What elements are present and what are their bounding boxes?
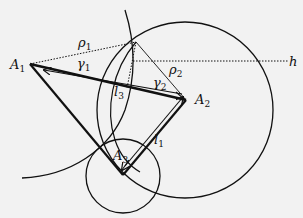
point-label-a2: A2 — [195, 93, 210, 109]
point-label-a3: A3 — [113, 149, 128, 165]
label-h: h — [289, 55, 297, 68]
label-gamma1: γ1 — [77, 57, 91, 73]
label-gamma2: γ2 — [153, 76, 167, 92]
diagram-drawing — [0, 0, 303, 218]
label-l3: l3 — [114, 85, 124, 101]
geometry-diagram: A1 A2 A3 ρ1 γ1 ρ2 γ2 l3 l1 h — [0, 0, 303, 218]
edge-a1-a3 — [30, 64, 123, 175]
label-rho1: ρ1 — [78, 36, 91, 52]
large-circle — [97, 22, 273, 198]
label-l1: l1 — [154, 133, 164, 149]
label-rho2: ρ2 — [169, 63, 182, 79]
point-label-a1: A1 — [10, 58, 25, 74]
